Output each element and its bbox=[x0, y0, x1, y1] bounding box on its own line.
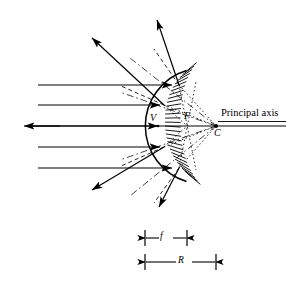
label-center-of-curvature: C bbox=[214, 128, 221, 138]
label-focal-point: F bbox=[184, 111, 190, 121]
label-radius: R bbox=[178, 256, 184, 266]
reflected-ray-group bbox=[92, 20, 179, 207]
focal-length-dimension bbox=[145, 230, 187, 246]
convex-mirror-diagram bbox=[0, 0, 286, 281]
reflected-ray-5 bbox=[159, 168, 179, 207]
figure-canvas: V F C Principal axis f R bbox=[0, 0, 286, 281]
label-vertex: V bbox=[150, 113, 156, 123]
label-focal-length: f bbox=[160, 232, 163, 242]
radius-construction-lines bbox=[120, 58, 216, 196]
label-principal-axis: Principal axis bbox=[221, 108, 278, 119]
reflected-ray-1 bbox=[157, 20, 179, 85]
point-vertex bbox=[157, 125, 160, 128]
